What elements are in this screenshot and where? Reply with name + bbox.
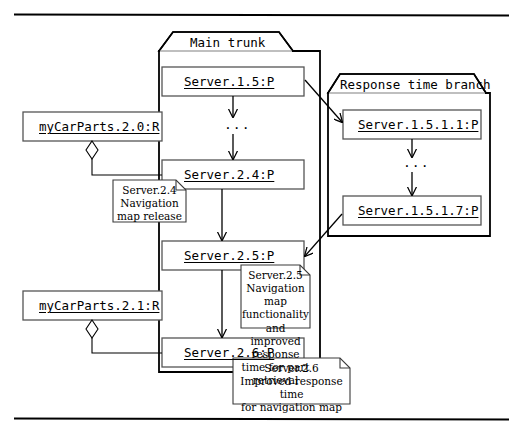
top-rule [14, 15, 509, 16]
node-label-mycarparts-2-1[interactable]: myCarParts.2.1:R [39, 298, 159, 313]
bottom-rule [14, 419, 509, 420]
node-label-server-2-4[interactable]: Server.2.4:P [184, 167, 274, 182]
package-title-response-time-branch: Response time branch [340, 77, 491, 92]
note-server-2-6: Server.2.6 Improved response time for na… [233, 362, 350, 415]
node-label-server-2-5[interactable]: Server.2.5:P [184, 248, 274, 263]
node-label-server-1-5[interactable]: Server.1.5:P [184, 74, 274, 89]
node-label-server-1-5-1-7[interactable]: Server.1.5.1.7:P [358, 203, 478, 218]
node-label-mycarparts-2-0[interactable]: myCarParts.2.0:R [39, 119, 159, 134]
package-title-main-trunk: Main trunk [190, 35, 265, 50]
aggregation-link-2-0 [92, 159, 162, 175]
aggregation-link-2-1 [92, 338, 162, 353]
ellipsis-branch: ... [403, 155, 429, 170]
diagram-canvas: Main trunk Response time branch Server.1… [0, 0, 523, 434]
note-server-2-4: Server.2.4 Navigation map release [113, 184, 186, 223]
node-label-server-1-5-1-1[interactable]: Server.1.5.1.1:P [358, 117, 478, 132]
ellipsis-trunk: ... [224, 117, 250, 132]
aggregation-diamond-2-1 [86, 320, 98, 338]
aggregation-diamond-2-0 [86, 141, 98, 159]
